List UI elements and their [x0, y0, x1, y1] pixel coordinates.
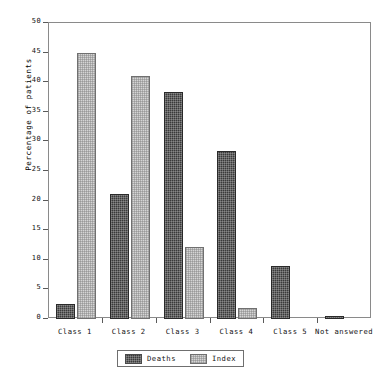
y-tick-mark	[43, 318, 48, 319]
y-tick-label: 20	[32, 195, 41, 203]
y-tick: 35	[0, 111, 48, 112]
legend-entry-index: Index	[190, 354, 236, 364]
y-tick: 30	[0, 140, 48, 141]
y-tick-label: 10	[32, 254, 41, 262]
bar-index-3	[185, 247, 204, 319]
legend-swatch-deaths	[125, 354, 142, 364]
bar-index-4	[238, 308, 257, 319]
legend-swatch-index	[190, 354, 207, 364]
chart-figure: Percentage of patients 05101520253035404…	[0, 0, 391, 380]
bar-deaths-6	[325, 316, 344, 319]
bar-index-2	[131, 76, 150, 319]
y-tick-label: 40	[32, 76, 41, 84]
x-tick-label: Class 3	[166, 327, 200, 336]
x-tick	[102, 318, 103, 323]
legend-label-index: Index	[212, 354, 236, 363]
y-tick-label: 50	[32, 17, 41, 25]
x-tick	[317, 318, 318, 323]
plot-area	[48, 22, 371, 318]
x-tick-label: Class 1	[58, 327, 92, 336]
y-tick-label: 30	[32, 135, 41, 143]
x-tick	[263, 318, 264, 323]
chart-legend: DeathsIndex	[117, 350, 244, 367]
y-tick-label: 15	[32, 224, 41, 232]
y-tick: 5	[0, 288, 48, 289]
y-tick: 25	[0, 170, 48, 171]
x-tick	[210, 318, 211, 323]
y-tick-label: 0	[36, 313, 41, 321]
y-tick: 20	[0, 200, 48, 201]
y-tick-label: 25	[32, 165, 41, 173]
y-tick-label: 35	[32, 106, 41, 114]
bar-index-1	[77, 53, 96, 319]
y-tick-label: 5	[36, 283, 41, 291]
y-tick: 10	[0, 259, 48, 260]
y-tick: 40	[0, 81, 48, 82]
y-tick-label: 45	[32, 47, 41, 55]
y-tick: 50	[0, 22, 48, 23]
y-tick: 45	[0, 52, 48, 53]
x-tick	[156, 318, 157, 323]
x-tick-label: Class 5	[273, 327, 307, 336]
y-tick: 0	[0, 318, 48, 319]
bar-deaths-5	[271, 266, 290, 319]
y-tick: 15	[0, 229, 48, 230]
x-tick-label: Class 4	[220, 327, 254, 336]
legend-entry-deaths: Deaths	[125, 354, 176, 364]
bar-deaths-1	[56, 304, 75, 319]
x-tick-label: Not answered	[315, 327, 373, 336]
x-tick-label: Class 2	[112, 327, 146, 336]
legend-label-deaths: Deaths	[147, 354, 176, 363]
bar-deaths-3	[164, 92, 183, 319]
bar-deaths-4	[217, 151, 236, 319]
bar-deaths-2	[110, 194, 129, 319]
